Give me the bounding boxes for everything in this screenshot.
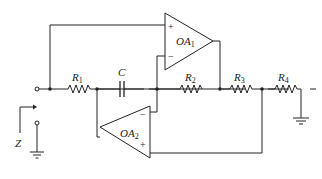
- r3-label: R3: [233, 71, 245, 85]
- r2-label: R2: [184, 71, 196, 85]
- arrow-icon: [33, 105, 37, 110]
- resistor-r1: R1: [68, 71, 90, 93]
- oa2-label: OA2: [120, 127, 139, 141]
- z-label: Z: [15, 137, 22, 149]
- resistor-r2: R2: [157, 71, 220, 93]
- oa1-plus-sign: +: [168, 21, 174, 32]
- input-terminal: [35, 87, 39, 91]
- oa2-plus-sign: +: [140, 139, 146, 150]
- circuit-diagram: R1 C + − OA1 R2 R3: [0, 0, 322, 179]
- c-label: C: [118, 66, 126, 78]
- wire-to-oa1-plus: [50, 25, 157, 89]
- wire-oa2-minus: [150, 89, 157, 112]
- resistor-r3: R3: [220, 71, 262, 93]
- wire-oa2-plus: [150, 89, 262, 153]
- opamp-oa2: − + OA2: [100, 106, 150, 158]
- wire-oa2-output: [97, 89, 100, 137]
- r4-label: R4: [277, 71, 289, 85]
- oa2-minus-sign: −: [140, 109, 146, 120]
- ground-icon: [293, 118, 309, 124]
- capacitor-c: C: [97, 66, 157, 97]
- wire-oa1-output: [213, 41, 220, 89]
- opamp-oa1: + − OA1: [157, 13, 213, 70]
- reference-terminal: [30, 121, 44, 158]
- wire-oa1-minus: [157, 56, 165, 89]
- oa1-label: OA1: [176, 35, 195, 49]
- impedance-indicator: Z: [15, 105, 37, 150]
- resistor-r4: R4: [262, 71, 301, 118]
- r1-label: R1: [71, 71, 83, 85]
- oa1-minus-sign: −: [168, 51, 174, 62]
